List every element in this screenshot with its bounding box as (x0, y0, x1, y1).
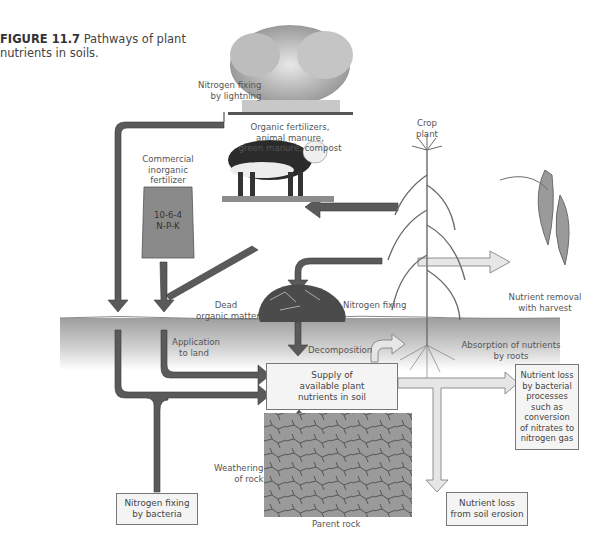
parent-rock-icon (264, 413, 412, 517)
label-application-to-land: Application to land (172, 337, 216, 358)
box-text: by bacteria (132, 509, 182, 519)
diagram-graphics (0, 0, 605, 555)
label-text: 10-6-4 (154, 210, 182, 220)
label-nitrogen-fixing: Nitrogen fixing (343, 300, 407, 311)
supply-box: Supply of available plant nutrients in s… (266, 363, 398, 410)
label-commercial-fertilizer: Commercial inorganic fertilizer (138, 154, 198, 186)
label-text: to land (179, 348, 209, 358)
label-organic-fertilizers: Organic fertilizers, animal manure, gree… (230, 122, 350, 154)
box-text: nitrogen gas (521, 433, 574, 443)
harvest-arrow (418, 251, 510, 273)
label-crop-plant: Crop plant (412, 118, 442, 139)
box-text: processes (526, 391, 568, 401)
box-text: Nutrient loss (520, 370, 573, 380)
box-text: from soil erosion (450, 509, 523, 519)
label-lightning: Nitrogen fixing by lightning (198, 80, 262, 101)
bacterial-loss-box: Nutrient loss by bacterial processes suc… (515, 364, 579, 450)
label-text: N-P-K (156, 221, 179, 231)
fertilizer-arrow (154, 262, 174, 312)
box-text: Nutrient loss (459, 498, 515, 508)
box-text: such as (531, 402, 563, 412)
label-text: plant (416, 129, 438, 139)
label-text: animal manure, (256, 133, 324, 143)
label-dead-organic-matter: Dead organic matter (196, 300, 256, 321)
label-text: green manure, compost (238, 143, 341, 153)
label-text: Application (172, 337, 220, 347)
label-text: Weathering (214, 463, 263, 473)
label-text: inorganic (148, 165, 188, 175)
bacteria-fixing-box: Nitrogen fixing by bacteria (116, 493, 198, 525)
label-absorption: Absorption of nutrients by roots (456, 340, 566, 361)
box-text: Nitrogen fixing (125, 498, 190, 508)
harvested-corn-icon (500, 170, 569, 265)
label-text: by roots (494, 351, 529, 361)
box-text: by bacterial (522, 381, 572, 391)
label-text: Organic fertilizers, (250, 122, 329, 132)
box-text: available plant (300, 381, 365, 391)
label-weathering: Weathering of rock (214, 463, 263, 484)
label-decomposition: Decomposition (308, 345, 372, 356)
loss-arrow (398, 372, 518, 492)
label-text: Dead (215, 300, 238, 310)
label-text: organic matter (196, 311, 260, 321)
erosion-loss-box: Nutrient loss from soil erosion (446, 492, 528, 526)
dead-organic-matter-icon (258, 285, 346, 322)
label-bag-npk: 10-6-4 N-P-K (148, 210, 188, 231)
label-text: Commercial (142, 154, 193, 164)
label-parent-rock: Parent rock (312, 519, 361, 530)
label-text: Crop (417, 118, 437, 128)
box-text: conversion (524, 412, 570, 422)
label-text: Nutrient removal (508, 292, 581, 302)
box-text: Supply of (311, 370, 352, 380)
label-text: by lightning (210, 91, 261, 101)
label-text: with harvest (518, 303, 571, 313)
label-text: Absorption of nutrients (461, 340, 560, 350)
box-text: of nitrates to (520, 423, 574, 433)
box-text: nutrients in soil (298, 392, 366, 402)
label-text: of rock (234, 474, 263, 484)
label-text: Nitrogen fixing (198, 80, 262, 90)
storm-cloud-icon (228, 25, 353, 115)
label-nutrient-removal: Nutrient removal with harvest (500, 292, 590, 313)
label-text: fertilizer (150, 175, 186, 185)
